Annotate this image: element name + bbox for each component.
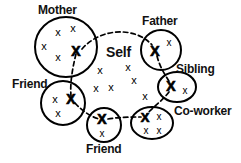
label-mother: Mother bbox=[38, 4, 77, 16]
friend_left-mark-2: x bbox=[55, 107, 61, 119]
self-mark-1: x bbox=[125, 61, 131, 73]
self-mark-4: x bbox=[108, 81, 114, 93]
father-mark-1: x bbox=[167, 37, 172, 48]
father-primary-mark: X bbox=[150, 43, 160, 59]
label-father: Father bbox=[142, 15, 177, 27]
coworker-mark-1: x bbox=[157, 111, 162, 122]
link-friend_bottom-coworker bbox=[108, 117, 141, 119]
mother-mark-1: x bbox=[70, 22, 76, 34]
label-sibling: Sibling bbox=[176, 63, 215, 75]
mother-mark-3: x bbox=[55, 51, 61, 63]
sibling-mark-1: x bbox=[183, 85, 188, 96]
group-circle-friend_left[interactable] bbox=[41, 81, 85, 125]
label-coworker: Co-worker bbox=[174, 105, 232, 117]
label-friend_bottom: Friend bbox=[86, 143, 121, 155]
self-mark-2: x bbox=[131, 74, 137, 86]
mother-mark-0: x bbox=[55, 26, 61, 38]
diagram-canvas: xxxxXXxXxXxxxXxxXxxxxxxx MotherFatherSib… bbox=[0, 0, 241, 163]
sibling-primary-mark: X bbox=[166, 78, 176, 94]
label-self: Self bbox=[106, 45, 131, 59]
group-circle-sibling[interactable] bbox=[158, 72, 196, 102]
coworker-primary-mark: X bbox=[141, 110, 150, 125]
label-friend_left: Friend bbox=[12, 78, 47, 90]
friend_bottom-primary-mark: X bbox=[97, 111, 107, 127]
self-mark-0: x bbox=[97, 64, 103, 76]
mother-primary-mark: X bbox=[71, 43, 81, 59]
friend_bottom-mark-1: x bbox=[100, 128, 105, 139]
coworker-mark-3: x bbox=[157, 125, 162, 136]
coworker-mark-2: x bbox=[144, 125, 149, 136]
self-mark-5: x bbox=[142, 90, 148, 102]
group-circle-father[interactable] bbox=[141, 30, 181, 70]
mother-mark-2: x bbox=[41, 40, 47, 52]
friend_left-primary-mark: X bbox=[66, 91, 76, 107]
group-circle-coworker[interactable] bbox=[131, 107, 173, 139]
self-mark-3: x bbox=[93, 82, 99, 94]
friend_left-mark-0: x bbox=[52, 93, 58, 105]
